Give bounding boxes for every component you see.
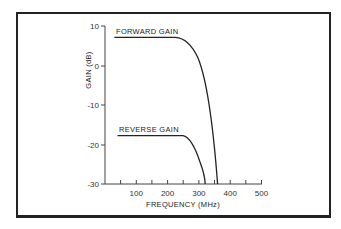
x-tick-400: 400 xyxy=(224,189,238,198)
x-tick-200: 200 xyxy=(161,189,175,198)
x-ticks xyxy=(121,180,262,184)
y-axis-label: GAIN (dB) xyxy=(84,51,93,88)
x-axis-label: FREQUENCY (MHz) xyxy=(146,200,220,209)
x-tick-500: 500 xyxy=(255,189,269,198)
reverse-gain-curve xyxy=(118,136,206,184)
gain-chart: 10 0 -10 -20 -30 100 200 300 400 500 FRE… xyxy=(0,0,341,229)
y-tick-0: 0 xyxy=(95,62,100,71)
x-tick-300: 300 xyxy=(192,189,206,198)
y-tick-minus-20: -20 xyxy=(87,141,99,150)
y-tick-minus-10: -10 xyxy=(87,101,99,110)
forward-gain-label: FORWARD GAIN xyxy=(116,27,178,36)
x-tick-100: 100 xyxy=(130,189,144,198)
forward-gain-curve xyxy=(114,37,217,184)
y-ticks xyxy=(101,26,105,184)
reverse-gain-label: REVERSE GAIN xyxy=(119,125,179,134)
y-tick-minus-30: -30 xyxy=(87,180,99,189)
y-tick-10: 10 xyxy=(90,22,99,31)
